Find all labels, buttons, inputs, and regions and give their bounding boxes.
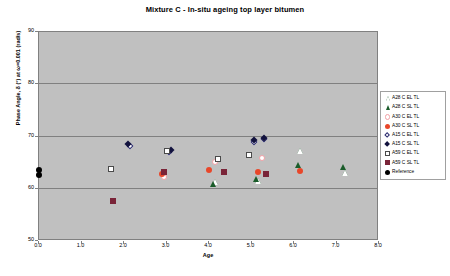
- plot-area: [38, 31, 378, 240]
- data-point: [108, 166, 114, 172]
- gridline-y-60: [39, 188, 377, 189]
- legend-marker-icon: [383, 170, 392, 175]
- data-point: [297, 148, 303, 154]
- data-point: [255, 169, 261, 175]
- legend-item-7[interactable]: A59 C SL TL: [383, 158, 444, 167]
- x-tick-mark-7.0: [336, 241, 337, 244]
- data-point: [36, 172, 42, 178]
- marker-circle-filled: [255, 169, 261, 175]
- legend-label: A28 C SL TL: [392, 105, 419, 110]
- legend-item-4[interactable]: A15 C EL TL: [383, 131, 444, 140]
- legend-item-1[interactable]: A28 C SL TL: [383, 103, 444, 112]
- legend-marker-icon: [383, 114, 392, 119]
- marker-square-filled: [221, 169, 227, 175]
- data-point: [161, 169, 167, 175]
- gridline-y-70: [39, 136, 377, 137]
- gridline-y-80: [39, 83, 377, 84]
- legend-item-6[interactable]: A59 C EL TL: [383, 149, 444, 158]
- marker-triangle-filled: [253, 176, 259, 182]
- marker-triangle-filled: [210, 181, 216, 187]
- marker-circle-filled: [297, 168, 303, 174]
- marker-diamond-filled: [261, 134, 268, 141]
- legend-label: A30 C SL TL: [392, 124, 419, 129]
- x-tick-mark-2.0: [123, 241, 124, 244]
- y-tick-mark-90: [35, 31, 38, 32]
- legend-marker-icon: [383, 151, 392, 156]
- data-point: [210, 181, 216, 187]
- marker-square-open: [246, 152, 252, 158]
- data-point: [251, 137, 256, 142]
- marker-square-open: [108, 166, 114, 172]
- marker-circle-filled: [36, 167, 42, 173]
- marker-diamond-filled: [250, 136, 257, 143]
- legend-label: Reference: [392, 170, 414, 175]
- legend-marker-icon: [383, 124, 392, 129]
- x-tick-mark-4.0: [208, 241, 209, 244]
- legend-item-5[interactable]: A15 C SL TL: [383, 140, 444, 149]
- marker-circle-filled: [206, 167, 212, 173]
- legend-item-2[interactable]: A30 C EL TL: [383, 112, 444, 121]
- y-axis-title: Phase Angle, δ (°) at ω=0.001 (rad/s): [15, 13, 21, 143]
- marker-triangle-filled: [340, 164, 346, 170]
- data-point: [342, 170, 348, 176]
- legend-label: A15 C EL TL: [392, 133, 419, 138]
- data-point: [259, 155, 265, 161]
- x-tick-mark-0.0: [38, 241, 39, 244]
- legend-marker-icon: [383, 160, 392, 165]
- y-tick-mark-70: [35, 136, 38, 137]
- legend-item-8[interactable]: Reference: [383, 168, 444, 177]
- marker-square-filled: [263, 171, 269, 177]
- data-point: [246, 152, 252, 158]
- legend-label: A59 C EL TL: [392, 151, 419, 156]
- chart-title: Mixture C - In-situ ageing top layer bit…: [0, 5, 450, 14]
- x-tick-mark-3.0: [166, 241, 167, 244]
- data-point: [206, 167, 212, 173]
- marker-diamond-filled: [125, 140, 132, 147]
- data-point: [221, 169, 227, 175]
- legend-item-0[interactable]: A28 C EL TL: [383, 94, 444, 103]
- marker-circle-filled: [36, 172, 42, 178]
- x-tick-mark-5.0: [251, 241, 252, 244]
- y-tick-label-60: 60: [0, 184, 34, 190]
- data-point: [215, 156, 221, 162]
- legend-label: A59 C SL TL: [392, 161, 419, 166]
- data-point: [36, 167, 42, 173]
- marker-square-open: [215, 156, 221, 162]
- legend-label: A30 C EL TL: [392, 115, 419, 120]
- legend-label: A28 C EL TL: [392, 96, 419, 101]
- legend-item-3[interactable]: A30 C SL TL: [383, 122, 444, 131]
- y-tick-mark-80: [35, 83, 38, 84]
- data-point: [110, 198, 116, 204]
- legend-marker-icon: [383, 133, 392, 137]
- data-point: [297, 168, 303, 174]
- x-tick-mark-8.0: [378, 241, 379, 244]
- data-point: [262, 135, 267, 140]
- chart-root: Mixture C - In-situ ageing top layer bit…: [0, 0, 450, 276]
- marker-square-filled: [161, 169, 167, 175]
- marker-square-filled: [110, 198, 116, 204]
- marker-triangle-open: [342, 170, 348, 176]
- legend-marker-icon: [383, 96, 392, 101]
- data-point: [164, 148, 170, 154]
- legend-label: A15 C SL TL: [392, 142, 419, 147]
- data-point: [253, 176, 259, 182]
- x-tick-mark-1.0: [81, 241, 82, 244]
- y-tick-mark-60: [35, 188, 38, 189]
- x-axis-title: Age: [0, 252, 416, 258]
- x-tick-mark-6.0: [293, 241, 294, 244]
- legend-marker-icon: [383, 105, 392, 110]
- legend-marker-icon: [383, 142, 392, 146]
- data-point: [126, 141, 131, 146]
- marker-circle-open: [259, 155, 265, 161]
- marker-square-open: [164, 148, 170, 154]
- marker-triangle-open: [297, 148, 303, 154]
- chart-legend: A28 C EL TLA28 C SL TLA30 C EL TLA30 C S…: [380, 91, 446, 180]
- data-point: [340, 164, 346, 170]
- data-point: [263, 171, 269, 177]
